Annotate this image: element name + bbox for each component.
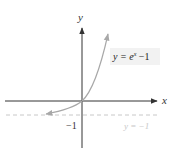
x-axis-label: x xyxy=(161,94,167,106)
curve-label: y = ex −1 xyxy=(112,51,149,62)
y-axis-label: y xyxy=(77,11,83,23)
graph-canvas: y x y = ex −1 −1 y = −1 xyxy=(0,0,173,160)
tick-label-neg1: −1 xyxy=(66,120,77,131)
asymptote-label: y = −1 xyxy=(123,121,149,131)
exponential-curve xyxy=(46,34,108,114)
